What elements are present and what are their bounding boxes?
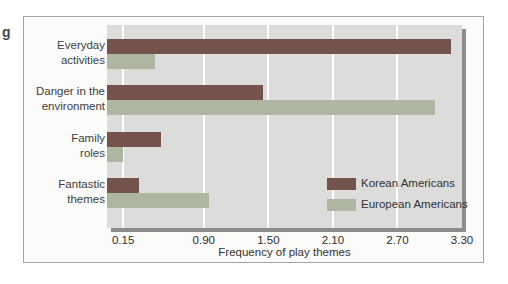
legend-label: European Americans (361, 198, 468, 210)
bar-korean-3 (107, 178, 139, 193)
bar-korean-1 (107, 85, 263, 100)
x-tick-label: 2.10 (322, 234, 344, 246)
category-label: Everydayactivities (24, 38, 105, 68)
category-label-line: themes (24, 192, 105, 207)
category-label-line: activities (24, 53, 105, 68)
figure-card: EverydayactivitiesDanger in theenvironme… (23, 16, 484, 263)
bar-european-1 (107, 100, 435, 115)
bar-european-3 (107, 193, 209, 208)
x-tick-label: 1.50 (257, 234, 279, 246)
legend-swatch (327, 178, 356, 190)
category-label-line: environment (24, 99, 105, 114)
category-label: Fantasticthemes (24, 177, 105, 207)
legend-label: Korean Americans (361, 177, 455, 189)
category-label: Danger in theenvironment (24, 84, 105, 114)
category-label-line: roles (24, 146, 105, 161)
caption-text-fragment: g (2, 24, 11, 40)
bar-european-0 (107, 54, 155, 69)
plot-area: Korean AmericansEuropean Americans (107, 25, 462, 228)
bar-korean-0 (107, 39, 451, 54)
x-tick-label: 2.70 (386, 234, 408, 246)
x-tick-label: 0.15 (112, 234, 134, 246)
bar-european-2 (107, 147, 123, 162)
category-label-line: Family (24, 131, 105, 146)
page: g EverydayactivitiesDanger in theenviron… (0, 0, 508, 284)
category-labels: EverydayactivitiesDanger in theenvironme… (24, 17, 105, 237)
legend: Korean AmericansEuropean Americans (327, 178, 462, 218)
category-label-line: Everyday (24, 38, 105, 53)
x-axis-label: Frequency of play themes (107, 246, 462, 258)
x-tick-label: 0.90 (193, 234, 215, 246)
legend-swatch (327, 199, 356, 211)
category-label: Familyroles (24, 131, 105, 161)
category-label-line: Fantastic (24, 177, 105, 192)
x-tick-label: 3.30 (451, 234, 473, 246)
category-label-line: Danger in the (24, 84, 105, 99)
bar-korean-2 (107, 132, 161, 147)
